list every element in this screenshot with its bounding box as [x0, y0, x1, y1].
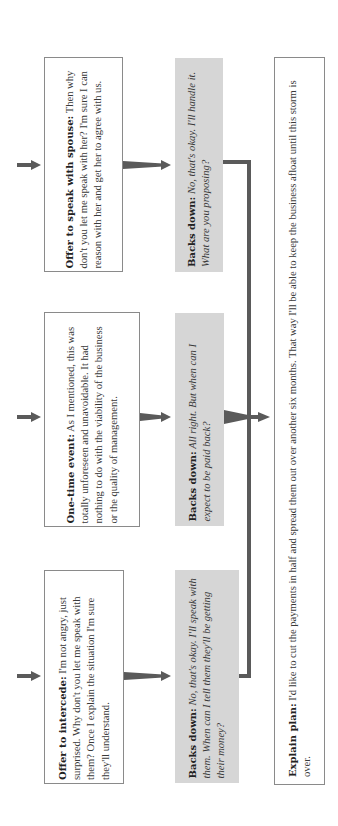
arrow-tactic2-to-response2 [140, 412, 171, 422]
response-box-3: Backs down: No, that's okay. I'll speak … [175, 570, 239, 783]
arrow-to-conclusion [224, 410, 270, 424]
response-label: Backs down: [187, 708, 198, 778]
arrow-tactic1-to-response1 [123, 160, 171, 170]
tactic-label: Offer to intercede: [57, 676, 68, 780]
incoming-arrow-1 [17, 160, 41, 170]
tactic-box-offer-to-intercede: Offer to intercede: I'm not angry, just … [44, 570, 124, 784]
response-label: Backs down: [186, 451, 197, 521]
response-box-1: Backs down: No, that's okay. I'll handle… [175, 58, 223, 272]
response-box-2: Backs down: All right. But when can I ex… [175, 313, 224, 526]
tactic-box-one-time-event: One-time event: As I mentioned, this was… [44, 312, 140, 527]
conclusion-label: Explain plan: [286, 703, 297, 777]
conclusion-box-explain-plan: Explain plan: I'd like to cut the paymen… [274, 57, 325, 785]
tactic-box-speak-with-spouse: Offer to speak with spouse: Then why don… [44, 57, 123, 272]
response-label: Backs down: [186, 197, 197, 267]
tactic-label: One-time event: [65, 434, 76, 523]
arrow-tactic3-to-response3 [124, 671, 171, 681]
tactic-label: Offer to speak with spouse: [63, 115, 74, 268]
incoming-arrow-2 [17, 412, 41, 422]
connector-bottom-stub [239, 674, 251, 678]
conclusion-text: I'd like to cut the payments in half and… [286, 80, 311, 777]
incoming-arrow-3 [17, 671, 41, 681]
